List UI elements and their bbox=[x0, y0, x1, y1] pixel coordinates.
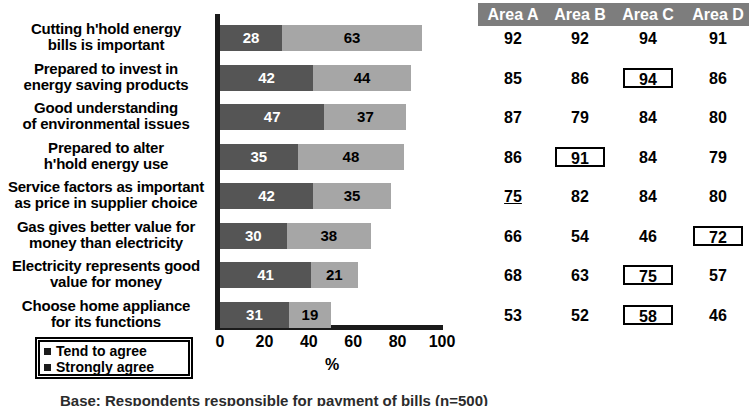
legend-label: Strongly agree bbox=[56, 359, 154, 375]
legend-item-strongly-agree: Strongly agree bbox=[44, 359, 184, 375]
category-label-line1: Good understanding bbox=[0, 100, 212, 116]
bar-row: 3038 bbox=[220, 223, 371, 249]
table-cell: 79 bbox=[555, 107, 605, 129]
category-label-line2: h'hold energy use bbox=[0, 156, 212, 172]
table-cell: 85 bbox=[488, 68, 538, 90]
category-label-line1: Prepared to alter bbox=[0, 140, 212, 156]
category-label-6: Gas gives better value formoney than ele… bbox=[0, 219, 212, 251]
bar-segment-strongly-agree: 35 bbox=[220, 144, 298, 170]
table-cell: 53 bbox=[488, 305, 538, 327]
table-cell: 84 bbox=[623, 147, 673, 169]
bar-segment-tend-to-agree: 21 bbox=[311, 262, 358, 288]
category-label-7: Electricity represents goodvalue for mon… bbox=[0, 258, 212, 290]
category-label-line1: Gas gives better value for bbox=[0, 219, 212, 235]
table-cell: 80 bbox=[693, 107, 743, 129]
category-label-line2: as price in supplier choice bbox=[0, 195, 212, 211]
table-cell: 52 bbox=[555, 305, 605, 327]
bar-segment-strongly-agree: 28 bbox=[220, 25, 282, 51]
category-label-list: Cutting h'hold energybills is importantP… bbox=[0, 0, 212, 330]
category-label-line1: Choose home appliance bbox=[0, 298, 212, 314]
area-data-table: Area AArea BArea CArea D 929294918586948… bbox=[452, 0, 749, 340]
table-cell: 68 bbox=[488, 265, 538, 287]
bar-row: 4235 bbox=[220, 183, 391, 209]
category-label-1: Cutting h'hold energybills is important bbox=[0, 21, 212, 53]
bar-row: 4121 bbox=[220, 262, 358, 288]
bar-segment-tend-to-agree: 63 bbox=[282, 25, 422, 51]
bar-segment-strongly-agree: 42 bbox=[220, 183, 313, 209]
table-cell: 86 bbox=[488, 147, 538, 169]
category-label-line2: for its functions bbox=[0, 314, 212, 330]
legend-swatch-icon bbox=[44, 364, 51, 371]
bar-segment-strongly-agree: 31 bbox=[220, 302, 289, 328]
legend-item-tend-to-agree: Tend to agree bbox=[44, 343, 184, 359]
table-cell: 87 bbox=[488, 107, 538, 129]
table-cell: 58 bbox=[623, 305, 673, 325]
table-header-area-a: Area A bbox=[480, 4, 546, 25]
bar-row: 4244 bbox=[220, 65, 411, 91]
table-cell: 57 bbox=[693, 265, 743, 287]
bar-segment-tend-to-agree: 37 bbox=[324, 104, 406, 130]
table-header-area-b: Area B bbox=[547, 4, 613, 25]
table-cell: 75 bbox=[623, 265, 673, 285]
table-cell: 84 bbox=[623, 186, 673, 208]
bar-row: 4737 bbox=[220, 104, 406, 130]
bar-segment-strongly-agree: 42 bbox=[220, 65, 313, 91]
legend-label: Tend to agree bbox=[56, 343, 147, 359]
x-tick-40: 40 bbox=[292, 333, 326, 351]
table-cell: 92 bbox=[488, 28, 538, 50]
legend-swatch-icon bbox=[44, 348, 51, 355]
bar-segment-strongly-agree: 41 bbox=[220, 262, 311, 288]
table-cell: 79 bbox=[693, 147, 743, 169]
category-label-line2: of environmental issues bbox=[0, 116, 212, 132]
table-cell: 54 bbox=[555, 226, 605, 248]
table-cell: 91 bbox=[693, 28, 743, 50]
bar-row: 3119 bbox=[220, 302, 331, 328]
bar-segment-tend-to-agree: 44 bbox=[313, 65, 411, 91]
bar-row: 2863 bbox=[220, 25, 422, 51]
category-label-line1: Service factors as important bbox=[0, 179, 212, 195]
category-label-line1: Cutting h'hold energy bbox=[0, 21, 212, 37]
table-cell: 46 bbox=[623, 226, 673, 248]
table-cell: 91 bbox=[555, 147, 605, 167]
table-cell: 46 bbox=[693, 305, 743, 327]
bar-segment-tend-to-agree: 19 bbox=[289, 302, 331, 328]
category-label-3: Good understandingof environmental issue… bbox=[0, 100, 212, 132]
table-cell: 92 bbox=[555, 28, 605, 50]
bar-segment-tend-to-agree: 35 bbox=[313, 183, 391, 209]
category-label-line2: money than electricity bbox=[0, 235, 212, 251]
category-label-8: Choose home appliancefor its functions bbox=[0, 298, 212, 330]
table-header-area-c: Area C bbox=[615, 4, 681, 25]
table-cell: 86 bbox=[693, 68, 743, 90]
bar-segment-tend-to-agree: 48 bbox=[298, 144, 405, 170]
chart-figure: Cutting h'hold energybills is importantP… bbox=[0, 0, 749, 406]
x-tick-20: 20 bbox=[247, 333, 281, 351]
bar-segment-strongly-agree: 47 bbox=[220, 104, 324, 130]
figure-caption: Base: Respondents responsible for paymen… bbox=[60, 392, 660, 406]
table-cell: 66 bbox=[488, 226, 538, 248]
category-label-4: Prepared to alterh'hold energy use bbox=[0, 140, 212, 172]
table-cell: 94 bbox=[623, 68, 673, 88]
table-cell: 84 bbox=[623, 107, 673, 129]
bar-chart-plot: 28634244473735484235303841213119 0204060… bbox=[212, 0, 452, 340]
chart-legend: Tend to agree Strongly agree bbox=[38, 340, 190, 376]
bar-segment-strongly-agree: 30 bbox=[220, 223, 287, 249]
bar-segment-tend-to-agree: 38 bbox=[287, 223, 371, 249]
category-label-line1: Prepared to invest in bbox=[0, 61, 212, 77]
category-label-line2: value for money bbox=[0, 274, 212, 290]
table-cell: 94 bbox=[623, 28, 673, 50]
x-tick-0: 0 bbox=[203, 333, 237, 351]
category-label-line2: energy saving products bbox=[0, 77, 212, 93]
table-cell: 82 bbox=[555, 186, 605, 208]
table-cell: 63 bbox=[555, 265, 605, 287]
table-cell: 80 bbox=[693, 186, 743, 208]
table-cell: 75 bbox=[488, 186, 538, 208]
table-cell: 86 bbox=[555, 68, 605, 90]
table-header-area-d: Area D bbox=[685, 4, 749, 25]
x-tick-60: 60 bbox=[336, 333, 370, 351]
category-label-line2: bills is important bbox=[0, 37, 212, 53]
category-label-line1: Electricity represents good bbox=[0, 258, 212, 274]
table-cell: 72 bbox=[693, 226, 743, 246]
x-axis-unit-label: % bbox=[212, 356, 452, 374]
category-label-2: Prepared to invest inenergy saving produ… bbox=[0, 61, 212, 93]
x-tick-80: 80 bbox=[381, 333, 415, 351]
